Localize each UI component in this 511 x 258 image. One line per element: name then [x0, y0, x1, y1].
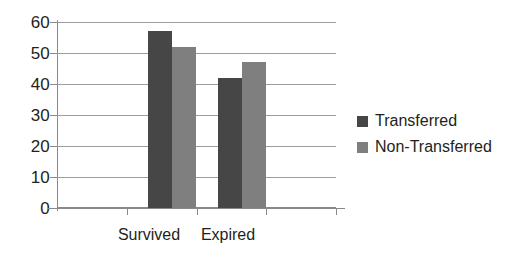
legend-label-transferred: Transferred	[375, 112, 457, 130]
legend-swatch-icon-transferred	[357, 116, 368, 127]
bar-chart: 60 50 40 30 20 10 0 Survived E	[0, 0, 511, 258]
bar-expired-transferred	[218, 78, 242, 208]
plot-area	[57, 22, 336, 208]
x-axis-labels: Survived Expired	[57, 226, 336, 250]
legend-item-non-transferred: Non-Transferred	[357, 134, 509, 160]
y-axis-labels: 60 50 40 30 20 10 0	[8, 0, 50, 258]
bar-survived-transferred	[148, 31, 172, 208]
x-tick-mark-3	[266, 208, 267, 215]
y-tick-label-20: 20	[8, 138, 50, 155]
bar-survived-non-transferred	[172, 47, 196, 208]
y-tick-label-0: 0	[8, 200, 50, 217]
y-tick-label-50: 50	[8, 45, 50, 62]
legend-swatch-icon-non-transferred	[357, 142, 368, 153]
chart-legend: Transferred Non-Transferred	[357, 108, 509, 160]
legend-item-transferred: Transferred	[357, 108, 509, 134]
gridline-10	[57, 177, 336, 178]
x-tick-mark-1	[127, 208, 128, 215]
y-tick-label-30: 30	[8, 107, 50, 124]
gridline-40	[57, 84, 336, 85]
y-tick-label-40: 40	[8, 76, 50, 93]
gridline-20	[57, 146, 336, 147]
y-tick-mark-10	[50, 177, 57, 178]
y-tick-mark-40	[50, 84, 57, 85]
y-tick-mark-30	[50, 115, 57, 116]
gridline-50	[57, 53, 336, 54]
x-tick-mark-2	[197, 208, 198, 215]
y-tick-mark-20	[50, 146, 57, 147]
y-tick-label-60: 60	[8, 14, 50, 31]
gridline-0	[57, 207, 336, 208]
y-tick-label-10: 10	[8, 169, 50, 186]
x-cat-label-survived: Survived	[109, 226, 189, 244]
y-tick-mark-60	[50, 22, 57, 23]
y-tick-mark-50	[50, 53, 57, 54]
gridline-60	[57, 22, 336, 23]
gridline-30	[57, 115, 336, 116]
x-tick-mark-4	[336, 208, 337, 215]
x-cat-label-expired: Expired	[190, 226, 266, 244]
bar-expired-non-transferred	[242, 62, 266, 208]
legend-label-non-transferred: Non-Transferred	[375, 138, 492, 156]
